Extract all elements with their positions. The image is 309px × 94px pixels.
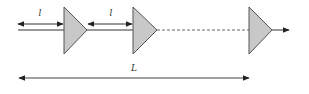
amplifier-icon-1	[64, 7, 87, 54]
total-length-label: L	[130, 63, 137, 73]
span-label-2: l	[110, 8, 113, 18]
amplifier-icon-2	[133, 7, 157, 54]
span-label-1: l	[39, 8, 42, 18]
amplifier-chain-diagram: l l L	[0, 0, 309, 94]
amplifier-icon-3	[249, 7, 272, 54]
